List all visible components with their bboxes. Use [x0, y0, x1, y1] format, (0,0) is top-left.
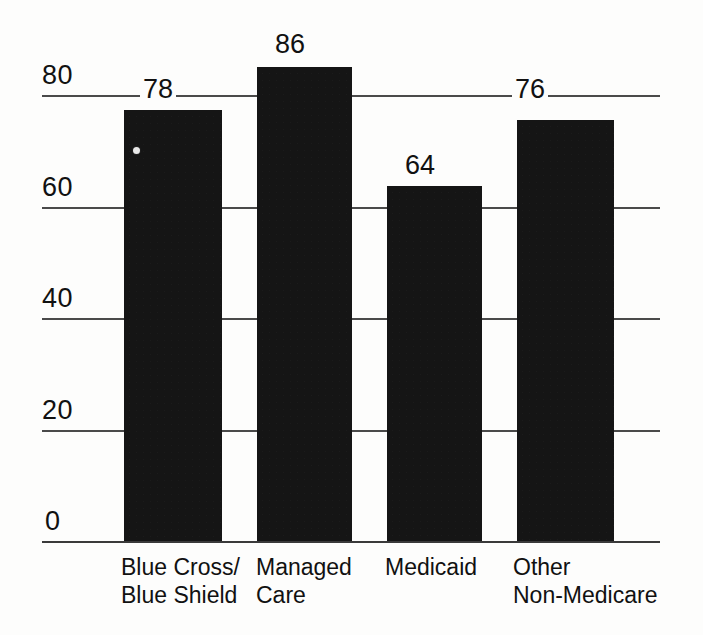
- bar-value-blue-cross-blue-shield: 78: [140, 76, 176, 103]
- ytick-label-40: 40: [42, 285, 73, 312]
- bar-value-other-non-medicare: 76: [512, 76, 548, 103]
- category-label-other-non-medicare: Other Non-Medicare: [513, 553, 657, 609]
- category-label-blue-cross-blue-shield: Blue Cross/ Blue Shield: [121, 553, 240, 609]
- bar-other-non-medicare[interactable]: [517, 120, 614, 541]
- bar-blue-cross-blue-shield[interactable]: [124, 110, 222, 541]
- ytick-label-0: 0: [45, 508, 61, 535]
- bar-chart: 80 60 40 20 0 78 86 64 76 Blue Cross/ Bl…: [0, 0, 703, 635]
- ytick-label-80: 80: [42, 62, 73, 89]
- ytick-label-60: 60: [42, 174, 73, 201]
- category-label-medicaid: Medicaid: [385, 553, 477, 581]
- category-label-managed-care: Managed Care: [256, 553, 352, 609]
- scan-artifact-dot: [133, 147, 140, 154]
- axis-baseline: [42, 541, 660, 543]
- ytick-label-20: 20: [42, 397, 73, 424]
- bar-medicaid[interactable]: [387, 186, 482, 541]
- bar-value-medicaid: 64: [402, 152, 438, 179]
- bar-value-managed-care: 86: [272, 31, 308, 58]
- bar-managed-care[interactable]: [257, 67, 352, 541]
- plot-area: 80 60 40 20 0 78 86 64 76 Blue Cross/ Bl…: [0, 0, 703, 635]
